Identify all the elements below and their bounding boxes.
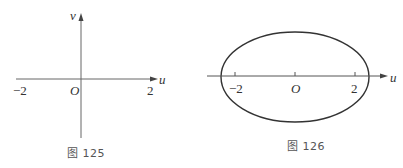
figure-126-ellipse-diagram — [207, 32, 388, 122]
fig125-v-label: v — [70, 9, 76, 22]
fig125-v-arrow-icon — [79, 13, 84, 21]
fig125-tick-label-neg2: −2 — [13, 84, 27, 97]
fig125-u-label: u — [159, 73, 166, 86]
fig126-tick-label-2: 2 — [351, 82, 358, 95]
fig125-tick-label-2: 2 — [147, 84, 154, 97]
fig126-u-label: u — [390, 71, 397, 84]
diagram-canvas — [0, 0, 403, 168]
fig126-ellipse — [221, 32, 369, 122]
fig126-origin-label: O — [291, 82, 300, 95]
fig125-caption: 图 125 — [67, 148, 105, 159]
fig126-caption: 图 126 — [287, 141, 325, 152]
fig125-u-arrow-icon — [150, 77, 158, 82]
fig126-u-arrow-icon — [380, 74, 388, 79]
fig126-tick-label-neg2: −2 — [229, 82, 243, 95]
fig125-origin-label: O — [70, 84, 79, 97]
figure-125-axes — [16, 13, 158, 138]
